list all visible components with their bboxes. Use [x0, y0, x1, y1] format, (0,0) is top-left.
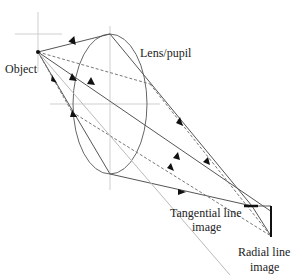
lens-pupil-label: Lens/pupil	[140, 47, 191, 60]
guide-lines	[15, 12, 160, 190]
object-point	[36, 50, 40, 54]
object-label: Object	[5, 63, 37, 76]
tangential-line-label-2: image	[192, 221, 221, 234]
radial-line-label-1: Radial line	[238, 246, 290, 259]
astigmatism-diagram	[0, 0, 295, 280]
tangential-line-label-1: Tangential line	[170, 207, 241, 220]
radial-line-label-2: image	[250, 261, 279, 274]
